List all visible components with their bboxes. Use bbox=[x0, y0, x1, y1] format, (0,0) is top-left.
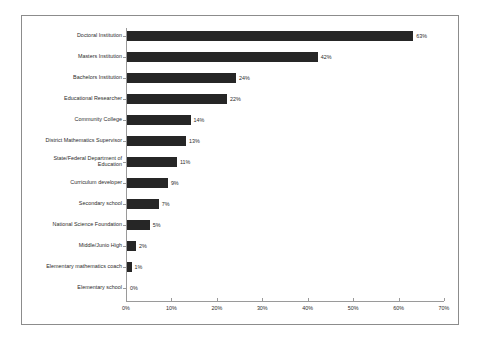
y-axis-tick bbox=[123, 162, 126, 163]
bar bbox=[127, 136, 186, 146]
bar-value-label: 13% bbox=[189, 136, 200, 146]
bar bbox=[127, 115, 191, 125]
plot-area: 63%42%24%22%14%13%11%9%7%5%2%1%0% Doctor… bbox=[22, 16, 460, 326]
chart-frame: 63%42%24%22%14%13%11%9%7%5%2%1%0% Doctor… bbox=[21, 15, 459, 325]
x-axis-tick bbox=[217, 298, 218, 301]
y-axis-tick bbox=[123, 267, 126, 268]
x-axis-tick-label: 30% bbox=[247, 305, 277, 311]
category-label: District Mathematics Supervisor bbox=[26, 137, 122, 143]
y-axis-tick bbox=[123, 36, 126, 37]
bar-value-label: 11% bbox=[180, 157, 190, 167]
category-label: Educational Researcher bbox=[26, 95, 122, 101]
x-axis-tick-label: 40% bbox=[293, 305, 323, 311]
bar bbox=[127, 94, 227, 104]
bar bbox=[127, 31, 413, 41]
category-label: Secondary school bbox=[26, 200, 122, 206]
category-label: Doctoral Institution bbox=[26, 32, 122, 38]
category-label: Masters Institution bbox=[26, 53, 122, 59]
x-axis-tick bbox=[308, 298, 309, 301]
bar-value-label: 63% bbox=[416, 31, 427, 41]
category-label: Elementary school bbox=[26, 284, 122, 290]
y-axis-tick bbox=[123, 225, 126, 226]
category-label: Middle/Junio High bbox=[26, 242, 122, 248]
bar-value-label: 9% bbox=[171, 178, 179, 188]
bar bbox=[127, 157, 177, 167]
category-label: Curriculum developer bbox=[26, 179, 122, 185]
bar bbox=[127, 199, 159, 209]
y-axis-tick bbox=[123, 288, 126, 289]
category-label: Bachelors Institution bbox=[26, 74, 122, 80]
y-axis-tick bbox=[123, 120, 126, 121]
x-axis-tick bbox=[171, 298, 172, 301]
x-axis-tick-label: 70% bbox=[429, 305, 459, 311]
bar-value-label: 24% bbox=[239, 73, 250, 83]
bar-value-label: 5% bbox=[153, 220, 161, 230]
x-axis-tick-label: 50% bbox=[338, 305, 368, 311]
bar-value-label: 7% bbox=[162, 199, 170, 209]
bar bbox=[127, 241, 136, 251]
bar-value-label: 22% bbox=[230, 94, 241, 104]
bar-value-label: 1% bbox=[135, 262, 143, 272]
bar bbox=[127, 220, 150, 230]
x-axis-tick-label: 10% bbox=[156, 305, 186, 311]
x-axis-tick bbox=[353, 298, 354, 301]
bar-value-label: 0% bbox=[130, 283, 138, 293]
y-axis-tick bbox=[123, 99, 126, 100]
category-label: National Science Foundation bbox=[26, 221, 122, 227]
x-axis-tick bbox=[399, 298, 400, 301]
y-axis-tick bbox=[123, 78, 126, 79]
x-axis-tick-label: 0% bbox=[111, 305, 141, 311]
y-axis-tick bbox=[123, 246, 126, 247]
y-axis-tick bbox=[123, 141, 126, 142]
x-axis-tick bbox=[262, 298, 263, 301]
bar bbox=[127, 178, 168, 188]
bar bbox=[127, 73, 236, 83]
category-label: Community College bbox=[26, 116, 122, 122]
category-label: Elementary mathematics coach bbox=[26, 263, 122, 269]
y-axis-tick bbox=[123, 204, 126, 205]
x-axis-tick-label: 20% bbox=[202, 305, 232, 311]
y-axis-tick bbox=[123, 183, 126, 184]
bar-value-label: 42% bbox=[321, 52, 332, 62]
bar-value-label: 14% bbox=[194, 115, 205, 125]
bar bbox=[127, 262, 132, 272]
x-axis-tick-label: 60% bbox=[384, 305, 414, 311]
category-label: State/Federal Department of Education bbox=[26, 155, 122, 168]
x-axis-tick bbox=[126, 298, 127, 301]
bar-value-label: 2% bbox=[139, 241, 147, 251]
x-axis-tick bbox=[444, 298, 445, 301]
bar bbox=[127, 52, 318, 62]
y-axis-tick bbox=[123, 57, 126, 58]
x-axis-line bbox=[126, 301, 444, 302]
